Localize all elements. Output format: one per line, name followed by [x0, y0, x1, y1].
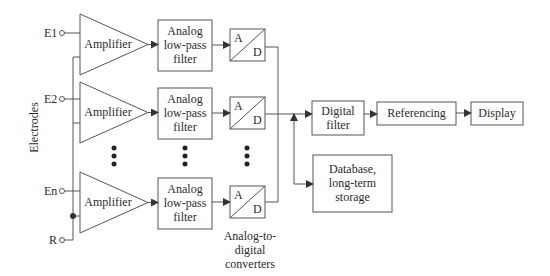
adc-a-label-1: A: [234, 31, 243, 45]
filter-label-2: Analog low-pass filter: [158, 92, 212, 134]
filter-label-n: Analog low-pass filter: [158, 182, 212, 224]
adc-a-label-n: A: [234, 188, 243, 202]
electrode-label-e2: E2: [44, 93, 57, 105]
adc-d-label-1: D: [253, 45, 262, 59]
electrode-terminal-r: [60, 238, 65, 243]
electrode-terminal-e2: [60, 97, 65, 102]
electrode-label-r: R: [49, 234, 57, 246]
electrode-terminal-e1: [60, 31, 65, 36]
amplifier-label-n: Amplifier: [82, 195, 134, 209]
adc-caption: Analog-to- digital converters: [220, 229, 280, 271]
referencing-label: Referencing: [377, 106, 456, 120]
filter-label-1: Analog low-pass filter: [158, 24, 212, 66]
electrodes-label: Electrodes: [27, 98, 42, 158]
reference-junction-dot: [70, 213, 76, 219]
database-label: Database, long-term storage: [313, 162, 392, 204]
electrode-label-e1: E1: [44, 27, 57, 39]
amplifier-label-1: Amplifier: [82, 37, 134, 51]
electrode-terminal-en: [60, 189, 65, 194]
adc-d-label-n: D: [253, 202, 262, 216]
adc-d-label-2: D: [253, 113, 262, 127]
amplifier-label-2: Amplifier: [82, 105, 134, 119]
digital-filter-label: Digital filter: [312, 104, 364, 132]
display-label: Display: [471, 106, 523, 120]
adc-a-label-2: A: [234, 99, 243, 113]
electrode-label-en: En: [44, 185, 57, 197]
